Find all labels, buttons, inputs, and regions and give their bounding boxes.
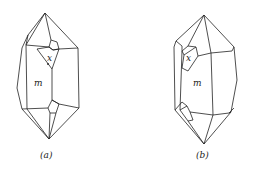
crystal-b-edge — [176, 41, 196, 51]
crystal-b-face-label-x: x — [186, 53, 191, 63]
crystal-a-caption: (a) — [40, 150, 53, 160]
crystal-b-edge — [175, 102, 187, 110]
crystal-a-face-s-lower — [48, 100, 59, 113]
crystal-a-edge — [45, 13, 51, 40]
crystal-figure: x m (a) — [0, 0, 253, 172]
crystal-b-edges — [174, 15, 237, 144]
crystal-a-edge — [59, 48, 78, 49]
crystal-a-face-x-dot — [47, 63, 49, 65]
crystal-a-edge — [52, 100, 59, 104]
crystal-b-outline — [174, 15, 237, 144]
crystal-b-edge — [204, 15, 211, 53]
crystal-a-edges — [17, 13, 79, 139]
crystal-b-edge — [180, 110, 193, 121]
crystal-a-edge — [26, 13, 45, 45]
crystal-b-edge — [188, 15, 204, 46]
crystal-a-face-label-x: x — [47, 53, 52, 63]
crystal-b-edge — [232, 47, 234, 51]
crystal-b-edge — [188, 121, 204, 144]
crystal-a-edge — [26, 45, 49, 47]
crystal-b-edge — [204, 115, 213, 144]
crystal-a: x m (a) — [17, 13, 79, 160]
crystal-b-edge — [211, 51, 232, 53]
crystal-b-edge — [180, 51, 182, 110]
crystal-b-face-label-m: m — [193, 78, 202, 88]
crystal-b-edge — [211, 53, 213, 115]
crystal-a-edge — [59, 104, 79, 108]
crystal-b-edge — [180, 106, 231, 115]
crystal-b: x m (b) — [174, 15, 237, 160]
crystal-b-caption: (b) — [196, 150, 209, 160]
crystal-b-edge — [198, 53, 211, 56]
crystal-a-edge — [26, 45, 27, 109]
crystal-a-edge — [27, 109, 49, 139]
crystal-a-face-label-m: m — [34, 78, 43, 88]
crystal-a-edge — [22, 108, 48, 109]
